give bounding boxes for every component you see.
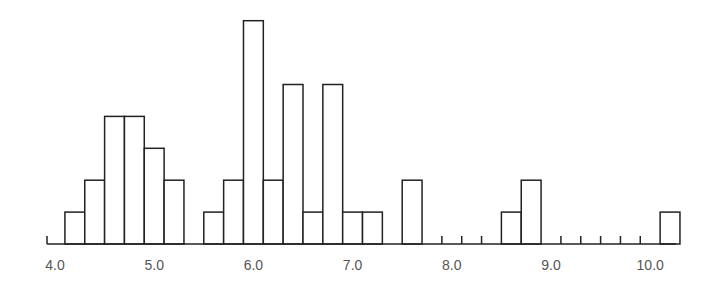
histogram-chart: 4.05.06.07.08.09.010.0 <box>0 0 722 285</box>
histogram-bar <box>501 212 521 244</box>
histogram-bar <box>660 212 680 244</box>
histogram-bar <box>243 21 263 244</box>
histogram-bar <box>124 116 144 244</box>
x-tick-label: 6.0 <box>244 257 264 273</box>
histogram-bar <box>363 212 383 244</box>
x-axis-labels: 4.05.06.07.08.09.010.0 <box>45 257 664 273</box>
histogram-bar <box>402 180 422 244</box>
histogram-bar <box>224 180 244 244</box>
histogram-bar <box>65 212 85 244</box>
histogram-bar <box>204 212 224 244</box>
histogram-bar <box>164 180 184 244</box>
x-tick-label: 10.0 <box>637 257 664 273</box>
histogram-bar <box>144 148 164 244</box>
histogram-bar <box>85 180 105 244</box>
x-tick-label: 9.0 <box>541 257 561 273</box>
histogram-bar <box>521 180 541 244</box>
histogram-bar <box>323 85 343 245</box>
histogram-bar <box>263 180 283 244</box>
histogram-bar <box>303 212 323 244</box>
x-tick-label: 5.0 <box>144 257 164 273</box>
histogram-bar <box>343 212 363 244</box>
histogram-bars <box>65 21 680 244</box>
x-tick-label: 4.0 <box>45 257 65 273</box>
x-tick-label: 7.0 <box>343 257 363 273</box>
histogram-bar <box>283 85 303 245</box>
x-tick-label: 8.0 <box>442 257 462 273</box>
histogram-bar <box>105 116 125 244</box>
